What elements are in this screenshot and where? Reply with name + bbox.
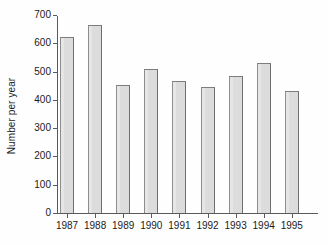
- bar-highlight: [117, 86, 120, 213]
- y-tick-label: 300: [34, 122, 51, 133]
- bar-1989: [116, 85, 130, 213]
- x-tick-label-1995: 1995: [272, 220, 312, 231]
- bar-highlight: [173, 82, 176, 213]
- bar-1988: [88, 25, 102, 213]
- bar-1987: [60, 37, 74, 213]
- y-tick-mark: [53, 213, 57, 214]
- y-tick-label: 700: [34, 9, 51, 20]
- x-tick-mark: [236, 214, 237, 218]
- x-tick-mark: [123, 214, 124, 218]
- y-tick-label: 0: [45, 207, 51, 218]
- x-tick-mark: [67, 214, 68, 218]
- bar-highlight: [258, 64, 261, 213]
- x-tick-mark: [95, 214, 96, 218]
- x-axis-line: [57, 213, 318, 214]
- bar-highlight: [230, 77, 233, 213]
- y-tick-mark: [53, 100, 57, 101]
- plot-area: 0100200300400500600700 19871988198919901…: [57, 14, 318, 214]
- bar-1994: [257, 63, 271, 213]
- y-tick-mark: [53, 72, 57, 73]
- y-axis-title: Number per year: [6, 62, 20, 170]
- bar-highlight: [61, 38, 64, 213]
- y-tick-mark: [53, 128, 57, 129]
- y-tick-label: 400: [34, 94, 51, 105]
- x-tick-mark: [292, 214, 293, 218]
- y-tick-mark: [53, 185, 57, 186]
- y-axis-line: [57, 16, 58, 214]
- x-tick-mark: [151, 214, 152, 218]
- y-tick-label: 200: [34, 150, 51, 161]
- y-tick-label: 600: [34, 37, 51, 48]
- bar-highlight: [89, 26, 92, 213]
- x-tick-mark: [179, 214, 180, 218]
- bar-1992: [201, 87, 215, 213]
- bar-highlight: [145, 70, 148, 213]
- bar-highlight: [286, 92, 289, 213]
- bar-highlight: [202, 88, 205, 213]
- y-tick-label: 500: [34, 66, 51, 77]
- x-tick-mark: [264, 214, 265, 218]
- x-tick-mark: [208, 214, 209, 218]
- y-tick-label: 100: [34, 179, 51, 190]
- bar-1990: [144, 69, 158, 213]
- bar-1995: [285, 91, 299, 213]
- bar-1991: [172, 81, 186, 213]
- y-tick-mark: [53, 15, 57, 16]
- bar-1993: [229, 76, 243, 213]
- y-tick-mark: [53, 156, 57, 157]
- y-tick-mark: [53, 43, 57, 44]
- bar-chart-figure: Number per year 0100200300400500600700 1…: [0, 0, 328, 245]
